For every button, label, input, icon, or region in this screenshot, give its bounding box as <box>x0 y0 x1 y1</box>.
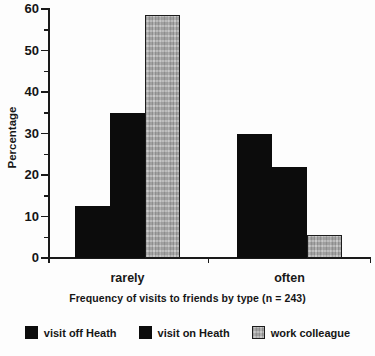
bar-chart-figure: Percentage 0102030405060 rarelyoften Fre… <box>0 0 375 356</box>
y-tick-label: 0 <box>9 251 39 265</box>
y-minor-tick <box>44 195 48 197</box>
category-label-rarely: rarely <box>88 271 168 285</box>
legend-item-visit-off-heath: visit off Heath <box>25 326 117 339</box>
bar-work-colleague-often <box>307 235 342 258</box>
y-tick-label: 60 <box>9 2 39 16</box>
x-axis-tick <box>370 258 372 263</box>
legend-item-visit-on-heath: visit on Heath <box>139 326 230 339</box>
y-tick-label: 30 <box>9 127 39 141</box>
y-tick-label: 20 <box>9 168 39 182</box>
bar-visit-off-heath-rarely <box>75 206 110 258</box>
y-tick-label: 10 <box>9 210 39 224</box>
y-minor-tick <box>44 29 48 31</box>
legend-item-work-colleague: work colleague <box>252 326 350 339</box>
y-major-tick <box>41 8 48 10</box>
category-label-often: often <box>250 271 330 285</box>
y-minor-tick <box>44 112 48 114</box>
bar-visit-off-heath-often <box>237 134 272 259</box>
y-minor-tick <box>44 154 48 156</box>
legend-swatch <box>25 326 38 339</box>
y-major-tick <box>41 257 48 259</box>
y-major-tick <box>41 91 48 93</box>
legend: visit off Heathvisit on Heathwork collea… <box>0 326 375 339</box>
legend-label: visit off Heath <box>44 327 117 339</box>
legend-swatch <box>252 326 265 339</box>
y-major-tick <box>41 50 48 52</box>
y-major-tick <box>41 216 48 218</box>
bar-visit-on-heath-often <box>272 167 307 258</box>
bar-visit-on-heath-rarely <box>110 113 145 258</box>
y-tick-label: 40 <box>9 85 39 99</box>
y-major-tick <box>41 133 48 135</box>
y-minor-tick <box>44 71 48 73</box>
y-minor-tick <box>44 237 48 239</box>
bar-work-colleague-rarely <box>145 15 180 258</box>
legend-label: visit on Heath <box>158 327 230 339</box>
x-axis-tick <box>208 258 210 263</box>
chart-caption: Frequency of visits to friends by type (… <box>0 292 375 304</box>
legend-swatch <box>139 326 152 339</box>
y-axis-line <box>48 8 50 258</box>
x-axis-tick <box>48 258 50 263</box>
y-major-tick <box>41 174 48 176</box>
y-tick-label: 50 <box>9 44 39 58</box>
legend-label: work colleague <box>271 327 350 339</box>
